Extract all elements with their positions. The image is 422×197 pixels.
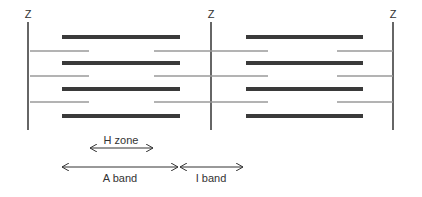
- z-label-left: Z: [25, 8, 32, 20]
- h-zone-annotation: H zone: [90, 134, 153, 148]
- a-band-label: A band: [103, 172, 137, 184]
- sarcomere-diagram: Z Z Z H zone A band: [0, 0, 422, 197]
- z-label-right: Z: [390, 8, 397, 20]
- i-band-annotation: I band: [180, 167, 243, 184]
- a-band-annotation: A band: [62, 167, 178, 184]
- i-band-label: I band: [196, 172, 227, 184]
- z-label-middle: Z: [208, 8, 215, 20]
- h-zone-label: H zone: [104, 134, 139, 146]
